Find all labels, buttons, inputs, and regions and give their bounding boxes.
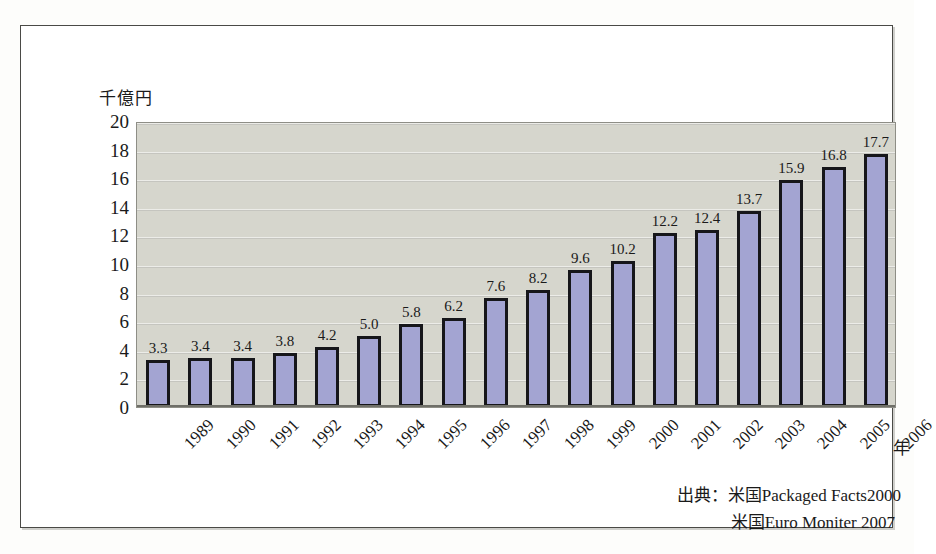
x-tick-label: 1999 [603, 416, 639, 452]
bar-slot: 3.8 [264, 123, 306, 407]
x-tick-label: 1997 [519, 416, 555, 452]
bar[interactable] [653, 233, 677, 407]
bar-value-label: 3.8 [261, 334, 309, 349]
bar[interactable] [399, 324, 423, 407]
bar-value-label: 12.2 [641, 214, 689, 229]
plot-area: 3.33.43.43.84.25.05.86.27.68.29.610.212.… [136, 122, 896, 408]
bar[interactable] [864, 154, 888, 407]
bar[interactable] [695, 230, 719, 407]
bar-value-label: 7.6 [472, 279, 520, 294]
bar-slot: 3.4 [221, 123, 263, 407]
x-axis-unit-label: 年 [893, 434, 910, 459]
bar[interactable] [568, 270, 592, 407]
x-axis-tick-labels: 1989199019911992199319941995199619971998… [136, 410, 896, 490]
y-tick-label: 20 [89, 112, 129, 131]
x-tick-label: 1996 [477, 416, 513, 452]
x-tick-label: 2004 [814, 416, 850, 452]
y-tick-label: 18 [89, 141, 129, 160]
bar[interactable] [188, 358, 212, 407]
bar-slot: 17.7 [855, 123, 897, 407]
x-tick-label: 2005 [857, 416, 893, 452]
bar-slot: 15.9 [770, 123, 812, 407]
y-tick-label: 10 [89, 255, 129, 274]
x-tick-label: 1995 [434, 416, 470, 452]
y-tick-label: 14 [89, 198, 129, 217]
bar-slot: 12.4 [686, 123, 728, 407]
x-tick-label: 1992 [308, 416, 344, 452]
bar-slot: 8.2 [517, 123, 559, 407]
bar-value-label: 15.9 [767, 161, 815, 176]
bar[interactable] [315, 347, 339, 407]
x-tick-label: 1989 [181, 416, 217, 452]
bar[interactable] [484, 298, 508, 407]
y-axis-tick-labels: 20181614121086420 [83, 122, 129, 408]
bar-slot: 9.6 [559, 123, 601, 407]
x-axis-line [137, 405, 895, 407]
y-tick-label: 0 [89, 398, 129, 417]
bar-value-label: 5.0 [345, 317, 393, 332]
x-tick-label: 2000 [646, 416, 682, 452]
bar-value-label: 9.6 [556, 251, 604, 266]
x-tick-label: 1998 [561, 416, 597, 452]
bar-value-label: 6.2 [430, 299, 478, 314]
bar-slot: 16.8 [813, 123, 855, 407]
bar-slot: 10.2 [601, 123, 643, 407]
bar-value-label: 5.8 [387, 305, 435, 320]
y-tick-label: 2 [89, 369, 129, 388]
bar[interactable] [146, 360, 170, 407]
bar[interactable] [442, 318, 466, 407]
bar-value-label: 8.2 [514, 271, 562, 286]
source-line-2: 米国Euro Moniter 2007 [521, 509, 901, 536]
bar-slot: 5.8 [390, 123, 432, 407]
bar-slot: 5.0 [348, 123, 390, 407]
bar-slot: 13.7 [728, 123, 770, 407]
source-line-1: 出典：米国Packaged Facts2000 [521, 482, 901, 509]
y-tick-label: 4 [89, 341, 129, 360]
bar[interactable] [611, 261, 635, 407]
bar[interactable] [357, 336, 381, 408]
bar-value-label: 13.7 [725, 192, 773, 207]
bar[interactable] [737, 211, 761, 407]
bar[interactable] [822, 167, 846, 407]
bar[interactable] [779, 180, 803, 407]
bar-value-label: 12.4 [683, 211, 731, 226]
source-note: 出典：米国Packaged Facts2000 米国Euro Moniter 2… [521, 482, 901, 536]
y-tick-label: 12 [89, 226, 129, 245]
x-tick-label: 1991 [266, 416, 302, 452]
bar-value-label: 10.2 [599, 242, 647, 257]
bar-slot: 3.3 [137, 123, 179, 407]
bar-value-label: 17.7 [852, 135, 900, 150]
bar[interactable] [273, 353, 297, 407]
bar-slot: 12.2 [644, 123, 686, 407]
x-tick-label: 1994 [392, 416, 428, 452]
bar-value-label: 3.4 [176, 339, 224, 354]
bar-value-label: 4.2 [303, 328, 351, 343]
x-tick-label: 2003 [772, 416, 808, 452]
x-tick-label: 2002 [730, 416, 766, 452]
bar-value-label: 16.8 [810, 148, 858, 163]
bar-slot: 4.2 [306, 123, 348, 407]
x-tick-label: 1993 [350, 416, 386, 452]
x-tick-label: 2001 [688, 416, 724, 452]
y-tick-label: 8 [89, 284, 129, 303]
x-tick-label: 1990 [223, 416, 259, 452]
bar-value-label: 3.3 [134, 341, 182, 356]
y-tick-label: 16 [89, 169, 129, 188]
bar-value-label: 3.4 [219, 339, 267, 354]
figure-frame: 千億円 20181614121086420 3.33.43.43.84.25.0… [20, 25, 893, 528]
y-axis-title: 千億円 [99, 84, 153, 109]
bar-slot: 6.2 [433, 123, 475, 407]
y-tick-label: 6 [89, 312, 129, 331]
bar-slot: 3.4 [179, 123, 221, 407]
bar[interactable] [231, 358, 255, 407]
bar[interactable] [526, 290, 550, 407]
bar-slot: 7.6 [475, 123, 517, 407]
